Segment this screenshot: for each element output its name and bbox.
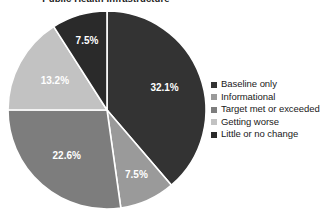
legend-swatch-icon bbox=[211, 132, 217, 138]
legend-item[interactable]: Target met or exceeded bbox=[211, 103, 321, 115]
pie-slice-group bbox=[8, 11, 206, 209]
legend-item-label: Getting worse bbox=[221, 116, 279, 128]
legend-item-label: Baseline only bbox=[221, 78, 277, 90]
legend-item[interactable]: Baseline only bbox=[211, 78, 321, 90]
legend-item-label: Little or no change bbox=[221, 128, 298, 140]
legend-item[interactable]: Informational bbox=[211, 91, 321, 103]
legend-item[interactable]: Getting worse bbox=[211, 116, 321, 128]
pie-chart-svg: 32.1%7.5%22.6%13.2%7.5% bbox=[0, 0, 212, 213]
pie-slice-label: 13.2% bbox=[41, 75, 69, 86]
pie-slice-label: 7.5% bbox=[125, 169, 148, 180]
legend-swatch-icon bbox=[211, 107, 217, 113]
legend-item-label: Target met or exceeded bbox=[221, 103, 320, 115]
legend-item[interactable]: Little or no change bbox=[211, 128, 321, 140]
pie-slice-label: 32.1% bbox=[150, 82, 178, 93]
pie-slice-label: 7.5% bbox=[76, 35, 99, 46]
legend-swatch-icon bbox=[211, 119, 217, 125]
legend-item-label: Informational bbox=[221, 91, 275, 103]
legend-swatch-icon bbox=[211, 94, 217, 100]
legend-swatch-icon bbox=[211, 82, 217, 88]
pie-chart-plot-area: 32.1%7.5%22.6%13.2%7.5% bbox=[0, 0, 212, 213]
pie-slice-label: 22.6% bbox=[53, 150, 81, 161]
pie-chart-figure: Public Health Infrastructure 32.1%7.5%22… bbox=[0, 0, 321, 213]
chart-legend: Baseline onlyInformationalTarget met or … bbox=[211, 78, 321, 141]
